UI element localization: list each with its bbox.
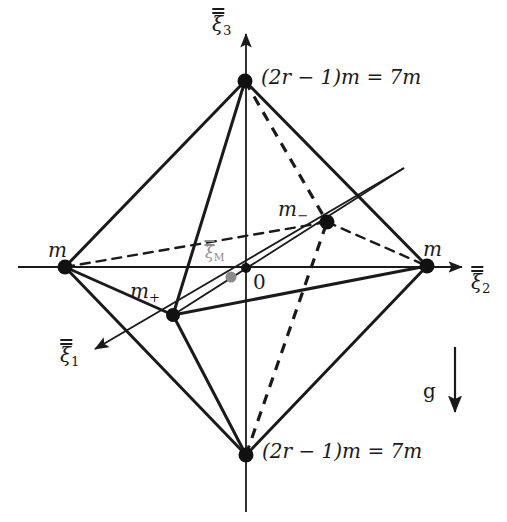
m-plus-subscript: +	[149, 290, 160, 305]
center-of-mass-label: ξM	[205, 245, 225, 263]
octahedron-hidden-edges	[245, 81, 327, 455]
xi1-accented-symbol: ξ	[60, 345, 71, 365]
xi-M-accented-symbol: ξ	[205, 245, 214, 261]
origin-label: 0	[253, 272, 266, 292]
edge-left-mminus-solid	[65, 222, 327, 267]
dot-origin	[241, 263, 251, 273]
xi2-subscript: 2	[482, 281, 490, 296]
axis-label-xi3: ξ3	[212, 14, 231, 37]
xi3-subscript: 3	[223, 23, 231, 38]
xi-M-subscript: M	[214, 251, 225, 263]
vertex-right-m-label: m	[423, 239, 442, 259]
figure-canvas	[0, 0, 507, 522]
edge-top-left	[65, 81, 245, 267]
dot-vertex-bottom	[239, 448, 254, 463]
xi1-subscript: 1	[71, 354, 79, 369]
gravity-label: g	[423, 381, 436, 401]
vertex-bottom-label: (2r − 1)m = 7m	[262, 441, 422, 461]
edge-top-right	[245, 81, 427, 266]
vertex-top-label: (2r − 1)m = 7m	[261, 67, 421, 87]
axis-label-xi1: ξ1	[60, 345, 79, 368]
vertex-m-plus-label: m+	[130, 281, 160, 304]
edge-mminus-right-solid	[327, 222, 427, 266]
dot-vertex-top	[238, 74, 253, 89]
vertex-m-minus-label: m−	[278, 199, 308, 222]
xi2-accented-symbol: ξ	[471, 272, 482, 292]
m-plus-base: m	[130, 279, 149, 303]
dot-vertex-m-minus	[320, 215, 335, 230]
m-minus-subscript: −	[297, 208, 308, 223]
dot-vertex-m-plus	[166, 308, 180, 322]
dot-center-of-mass	[226, 272, 237, 283]
edge-bottom-mminus	[246, 222, 327, 455]
octahedron-figure: ξ3 ξ2 ξ1 (2r − 1)m = 7m (2r − 1)m = 7m m…	[0, 0, 507, 522]
edge-bottom-mplus	[173, 315, 246, 455]
m-minus-base: m	[278, 197, 297, 221]
axis-label-xi2: ξ2	[471, 272, 490, 295]
vertex-left-m-label: m	[48, 240, 67, 260]
xi3-accented-symbol: ξ	[212, 14, 223, 34]
